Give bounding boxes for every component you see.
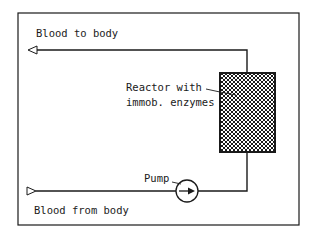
pump-to-reactor-line <box>198 152 247 191</box>
reactor-label-line2: immob. enzymes <box>126 96 215 108</box>
pump-label: Pump <box>144 172 169 184</box>
outflow-arrow-icon <box>28 46 37 54</box>
inflow-arrow-icon <box>27 187 36 195</box>
reactor-label-line1: Reactor with <box>126 81 202 93</box>
return-line <box>37 50 247 73</box>
reactor <box>220 73 275 152</box>
blood-from-body-label: Blood from body <box>34 204 129 216</box>
blood-to-body-label: Blood to body <box>36 27 118 39</box>
extracorporeal-reactor-diagram: Blood to body Blood from body Reactor wi… <box>0 0 315 239</box>
